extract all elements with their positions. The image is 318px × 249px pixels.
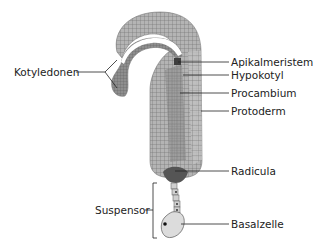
outer-cotyledon — [116, 12, 202, 178]
embryo-diagram: Kotyledonen Apikalmeristem Hypokotyl Pro… — [0, 0, 318, 249]
leader-kotyledonen — [76, 60, 117, 88]
suspensor-bracket — [153, 183, 157, 238]
label-procambium: Procambium — [231, 87, 297, 99]
label-basalzelle: Basalzelle — [231, 218, 284, 230]
suspensor-chain — [171, 183, 180, 213]
embryo-body — [112, 12, 202, 183]
basal-cell — [161, 212, 184, 238]
label-kotyledonen: Kotyledonen — [14, 66, 79, 78]
label-radicula: Radicula — [231, 165, 276, 177]
label-protoderm: Protoderm — [231, 105, 286, 117]
label-apikalmeristem: Apikalmeristem — [231, 56, 313, 68]
radicle — [163, 167, 188, 183]
label-hypokotyl: Hypokotyl — [231, 69, 284, 81]
apical-meristem — [174, 58, 181, 65]
basal-cell-nucleus — [163, 222, 167, 226]
label-suspensor: Suspensor — [95, 204, 150, 216]
